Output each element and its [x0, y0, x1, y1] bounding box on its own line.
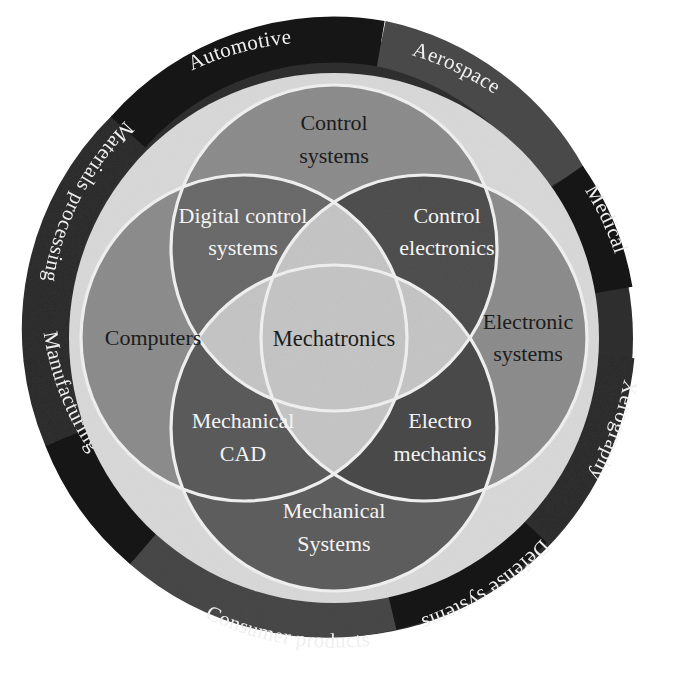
label-mechanical-cad-l1: Mechanical: [192, 408, 295, 433]
label-mechanical-cad-l2: CAD: [220, 441, 266, 466]
mechatronics-venn-diagram: Aerospace Medical Xerography Defense sys…: [0, 0, 675, 680]
label-computers-l1: Computers: [105, 325, 202, 350]
label-electro-mechanics-l2: mechanics: [394, 441, 487, 466]
label-control-electronics-l2: electronics: [399, 235, 494, 260]
label-electro-mechanics-l1: Electro: [408, 408, 472, 433]
label-control-systems-l1: Control: [300, 110, 367, 135]
label-control-electronics-l1: Control: [413, 203, 480, 228]
label-computers: Computers: [105, 325, 202, 350]
figure-caption: [0, 668, 675, 680]
label-mechatronics: Mechatronics: [273, 326, 395, 351]
figure-canvas: Aerospace Medical Xerography Defense sys…: [0, 0, 675, 680]
label-digital-control-systems-l1: Digital control: [179, 203, 308, 228]
label-control-systems-l2: systems: [299, 143, 369, 168]
label-electronic-systems-l1: Electronic: [483, 309, 574, 334]
label-electronic-systems-l2: systems: [493, 341, 563, 366]
label-digital-control-systems-l2: systems: [208, 235, 278, 260]
label-mechanical-systems-l2: Systems: [297, 531, 370, 556]
label-mechanical-systems-l1: Mechanical: [283, 498, 386, 523]
